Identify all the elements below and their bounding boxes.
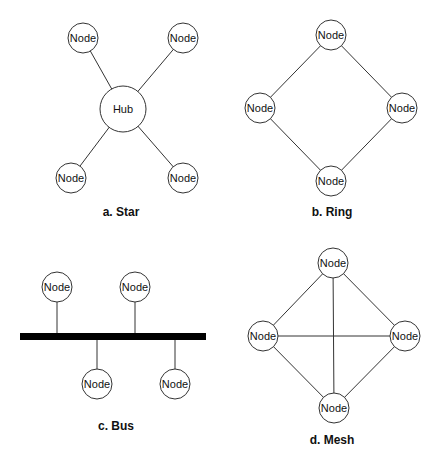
bus-caption: c. Bus [98,419,134,433]
bus-node: Node [160,369,190,399]
mesh-node: Node [318,248,348,278]
node-label: Node [392,330,418,342]
star-node: Node [168,23,198,53]
node-label: Node [320,257,346,269]
ring-topology: Node Node Node Node b. Ring [245,20,417,219]
bus-node: Node [42,272,72,302]
mesh-node: Node [319,393,349,423]
node-label: Node [389,102,415,114]
ring-node: Node [316,20,346,50]
star-caption: a. Star [103,205,140,219]
ring-edges [260,35,402,181]
mesh-edges [263,263,405,408]
ring-node: Node [316,166,346,196]
mesh-node: Node [390,321,420,351]
node-label: Node [162,378,188,390]
ring-caption: b. Ring [312,205,353,219]
node-label: Node [318,175,344,187]
node-label: Node [321,402,347,414]
mesh-caption: d. Mesh [310,433,355,447]
bus-topology: Node Node Node Node c. Bus [20,272,206,433]
ring-node: Node [387,93,417,123]
star-node: Node [68,23,98,53]
node-label: Node [250,330,276,342]
mesh-topology: Node Node Node Node d. Mesh [248,248,420,447]
bus-backbone [20,333,206,340]
star-hub: Hub [100,86,146,132]
star-topology: Hub Node Node Node Node a. Star [56,23,198,219]
node-label: Node [318,29,344,41]
bus-node: Node [120,272,150,302]
node-label: Node [247,102,273,114]
star-node: Node [56,163,86,193]
ring-node: Node [245,93,275,123]
bus-node: Node [82,369,112,399]
node-label: Node [58,172,84,184]
star-node: Node [168,163,198,193]
node-label: Node [170,172,196,184]
node-label: Node [70,32,96,44]
hub-label: Hub [113,103,133,115]
node-label: Node [44,281,70,293]
node-label: Node [84,378,110,390]
mesh-node: Node [248,321,278,351]
node-label: Node [170,32,196,44]
node-label: Node [122,281,148,293]
